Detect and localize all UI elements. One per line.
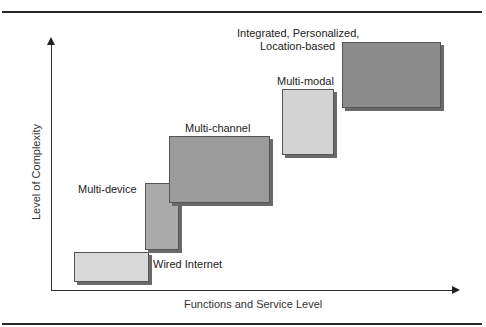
integrated-block xyxy=(342,42,441,108)
y-axis-arrow-icon xyxy=(47,37,55,45)
x-axis-arrow-icon xyxy=(452,286,460,294)
wired-internet-label: Wired Internet xyxy=(153,258,222,271)
y-axis xyxy=(51,44,52,290)
multi-device-label: Multi-device xyxy=(78,183,137,196)
x-axis xyxy=(51,290,454,291)
top-rule xyxy=(2,11,482,13)
x-axis-label: Functions and Service Level xyxy=(184,298,322,310)
multi-modal-label: Multi-modal xyxy=(277,75,334,88)
integrated-label-line2: Location-based xyxy=(260,40,335,53)
integrated-label-line1: Integrated, Personalized, xyxy=(237,27,359,40)
multi-channel-label: Multi-channel xyxy=(185,122,250,135)
multi-modal-block xyxy=(282,89,334,155)
bottom-rule xyxy=(2,323,482,325)
y-axis-label: Level of Complexity xyxy=(30,102,42,242)
multi-channel-block xyxy=(169,136,270,203)
wired-internet-block xyxy=(74,252,149,282)
